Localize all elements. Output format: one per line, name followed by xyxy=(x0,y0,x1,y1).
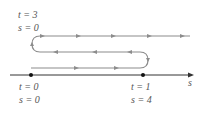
motion-diagram: t = 3 s = 0 t = 0 s = 0 t = 1 s = 4 s xyxy=(0,0,204,114)
label-start-t: t = 3 xyxy=(18,9,38,20)
origin-dot xyxy=(29,73,33,77)
label-origin-s: s = 0 xyxy=(19,94,40,105)
axis-label: s xyxy=(188,77,192,88)
label-turn-s: s = 4 xyxy=(131,94,152,105)
label-turn-t: t = 1 xyxy=(131,81,151,92)
label-start-s: s = 0 xyxy=(18,22,39,33)
label-origin-t: t = 0 xyxy=(19,81,39,92)
turn-dot xyxy=(141,73,145,77)
